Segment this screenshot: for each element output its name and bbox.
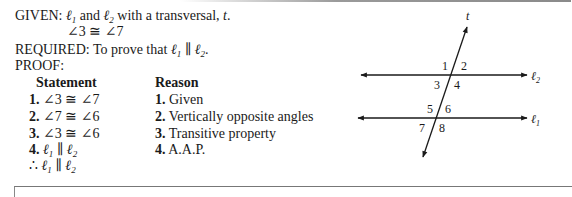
angle-label-7: 7 [419, 121, 425, 135]
line-l1-label: ℓ1 [531, 112, 540, 128]
angle-label-6: 6 [445, 102, 451, 116]
angle-label-8: 8 [439, 121, 445, 135]
transversal-graphic [423, 27, 467, 157]
angle-label-4: 4 [454, 78, 460, 92]
line-l2-label: ℓ2 [531, 69, 540, 85]
angle-label-2: 2 [461, 59, 467, 73]
next-section-frame [14, 186, 572, 197]
angle-label-1: 1 [442, 59, 448, 73]
angle-label-5: 5 [427, 102, 433, 116]
transversal-label: t [466, 9, 470, 23]
angle-label-3: 3 [434, 78, 440, 92]
